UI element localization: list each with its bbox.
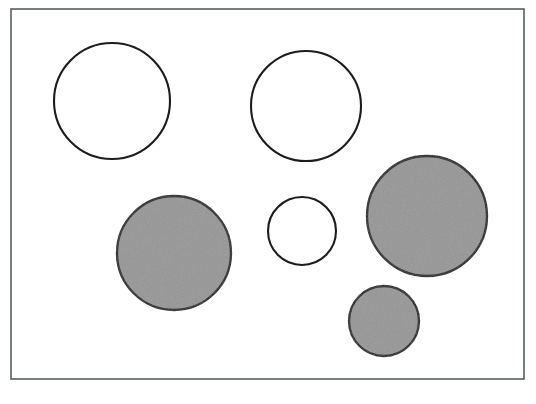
circle-shaded-bottom-small — [349, 286, 419, 356]
circle-shaded-right — [367, 156, 487, 276]
circle-shaded-left — [117, 196, 231, 310]
figure-canvas — [0, 0, 536, 404]
circle-unshaded-center-small — [268, 197, 336, 265]
circle-unshaded-top-right — [251, 51, 361, 161]
circle-unshaded-top-left — [54, 43, 170, 159]
circles-figure — [0, 0, 536, 404]
